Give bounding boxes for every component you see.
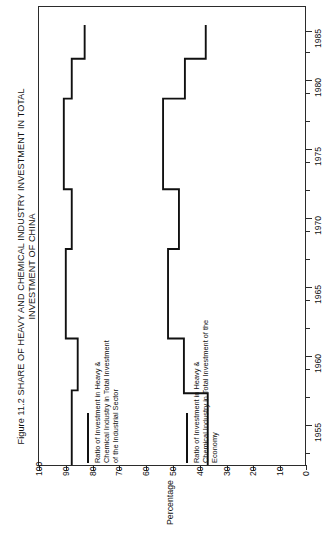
year-tick-label-1975: 1975 [313, 147, 323, 166]
value-tick-label-100: 100 [34, 462, 44, 476]
value-tick-label-70: 70 [114, 466, 124, 476]
year-tick-minor [305, 453, 310, 454]
value-tick-label-90: 90 [61, 466, 71, 476]
value-tick-0 [306, 465, 307, 470]
year-tick-label-1955: 1955 [313, 423, 323, 442]
value-tick-label-0: 0 [301, 471, 311, 476]
year-tick-minor [305, 328, 310, 329]
year-tick-minor [305, 190, 310, 191]
year-tick-minor [305, 121, 310, 122]
year-tick-label-1960: 1960 [313, 354, 323, 373]
year-tick-1965 [305, 287, 312, 288]
year-tick-minor [305, 93, 310, 94]
year-tick-minor [305, 162, 310, 163]
series-layer [39, 7, 305, 465]
value-tick-label-60: 60 [141, 466, 151, 476]
year-tick-1980 [305, 80, 312, 81]
year-tick-1955 [305, 425, 312, 426]
annotation-text-industrial-sector: Ratio of Investment in Heavy & Chemical … [93, 313, 120, 463]
figure-title: Figure 11.2 SHARE OF HEAVY AND CHEMICAL … [16, 0, 39, 537]
annotation-leader-bar-economy [186, 413, 188, 463]
year-tick-minor [305, 397, 310, 398]
year-tick-label-1970: 1970 [313, 216, 323, 235]
year-tick-1970 [305, 218, 312, 219]
annotation-text-total-economy: Ratio of Investment in Heavy & Chemical … [192, 313, 219, 463]
year-tick-label-1980: 1980 [313, 78, 323, 97]
value-tick-label-80: 80 [88, 466, 98, 476]
year-tick-minor [305, 369, 310, 370]
plot-area: Ratio of Investment in Heavy & Chemical … [38, 6, 306, 466]
value-tick-label-10: 10 [275, 466, 285, 476]
annotation-leader-bar-industrial [87, 413, 89, 463]
year-tick-minor [305, 300, 310, 301]
year-tick-1960 [305, 356, 312, 357]
value-axis-label: Percentage [165, 480, 175, 525]
value-tick-label-40: 40 [195, 466, 205, 476]
figure-page: Figure 11.2 SHARE OF HEAVY AND CHEMICAL … [0, 0, 325, 537]
year-tick-minor [305, 52, 310, 53]
value-tick-label-50: 50 [168, 466, 178, 476]
value-tick-label-20: 20 [248, 466, 258, 476]
year-tick-minor [305, 259, 310, 260]
year-tick-label-1985: 1985 [313, 29, 323, 48]
year-tick-minor [305, 231, 310, 232]
year-tick-1975 [305, 149, 312, 150]
value-tick-label-30: 30 [222, 466, 232, 476]
year-tick-1985 [305, 31, 312, 32]
year-tick-label-1965: 1965 [313, 285, 323, 304]
series-industrial-sector-line [64, 25, 85, 465]
